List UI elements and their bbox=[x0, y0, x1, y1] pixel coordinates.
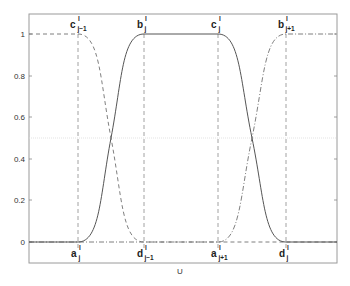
svg-text:l: l bbox=[286, 15, 288, 22]
svg-text:b: b bbox=[137, 19, 143, 30]
svg-text:l: l bbox=[219, 15, 221, 22]
plot-area bbox=[29, 14, 337, 263]
svg-text:a: a bbox=[211, 248, 217, 259]
y-tick-0.6: 0.6 bbox=[14, 113, 26, 122]
svg-text:j: j bbox=[78, 254, 81, 262]
svg-text:j: j bbox=[218, 25, 221, 33]
membership-function-chart: 0 0.2 0.4 0.6 0.8 1 c l j−1 b l j c l bbox=[0, 0, 350, 286]
svg-text:d: d bbox=[279, 248, 285, 259]
svg-text:j+1: j+1 bbox=[285, 25, 296, 33]
y-tick-0.8: 0.8 bbox=[14, 72, 26, 81]
svg-text:l: l bbox=[78, 15, 80, 22]
svg-text:l: l bbox=[145, 15, 147, 22]
svg-text:l: l bbox=[79, 244, 81, 251]
y-tick-0: 0 bbox=[21, 238, 26, 247]
svg-text:l: l bbox=[219, 244, 221, 251]
svg-text:c: c bbox=[70, 19, 76, 30]
svg-text:a: a bbox=[71, 248, 77, 259]
svg-text:j−1: j−1 bbox=[77, 25, 88, 33]
y-tick-0.4: 0.4 bbox=[14, 155, 26, 164]
svg-text:l: l bbox=[287, 244, 289, 251]
svg-text:j: j bbox=[144, 25, 147, 33]
svg-text:j−1: j−1 bbox=[144, 254, 155, 262]
svg-text:l: l bbox=[145, 244, 147, 251]
svg-text:j: j bbox=[286, 254, 289, 262]
y-axis-tick-labels: 0 0.2 0.4 0.6 0.8 1 bbox=[14, 30, 26, 247]
svg-text:j+1: j+1 bbox=[218, 254, 229, 262]
y-tick-0.2: 0.2 bbox=[14, 196, 26, 205]
y-tick-1: 1 bbox=[21, 30, 26, 39]
svg-text:b: b bbox=[278, 19, 284, 30]
svg-text:c: c bbox=[211, 19, 217, 30]
svg-text:d: d bbox=[137, 248, 143, 259]
x-axis-label: U bbox=[177, 267, 183, 276]
